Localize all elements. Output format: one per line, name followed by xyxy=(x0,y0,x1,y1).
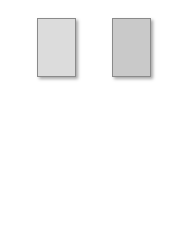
periodic-table-diagram xyxy=(0,0,187,245)
